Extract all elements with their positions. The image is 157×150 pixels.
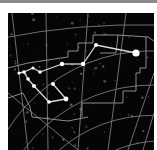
background-star-icon (9, 46, 10, 47)
background-star-icon (112, 100, 113, 101)
background-star-icon (56, 16, 57, 17)
background-star-icon (103, 23, 105, 25)
star-icon (22, 70, 26, 74)
background-star-icon (52, 136, 54, 138)
star-icon (26, 77, 30, 81)
background-star-icon (148, 83, 149, 84)
background-star-icon (10, 33, 12, 35)
background-star-icon (68, 87, 70, 89)
background-star-icon (128, 114, 130, 116)
background-star-icon (27, 43, 29, 45)
background-star-icon (125, 69, 126, 70)
star-icon (51, 82, 55, 86)
background-star-icon (99, 63, 100, 64)
background-star-icon (85, 125, 88, 128)
background-star-icon (104, 131, 105, 132)
background-star-icon (97, 65, 98, 66)
background-star-icon (80, 72, 83, 75)
background-star-icon (25, 120, 28, 123)
background-star-icon (36, 85, 38, 87)
background-star-icon (95, 67, 97, 69)
background-star-icon (32, 147, 34, 149)
background-star-icon (141, 97, 144, 100)
background-star-icon (70, 103, 73, 106)
background-star-icon (79, 89, 80, 90)
star-icon (47, 100, 51, 104)
background-star-icon (77, 69, 78, 70)
background-star-icon (137, 60, 138, 61)
background-star-icon (42, 133, 44, 135)
top-border (0, 0, 157, 3)
background-star-icon (89, 90, 90, 91)
star-chart (8, 13, 154, 150)
background-star-icon (8, 79, 9, 81)
background-star-icon (72, 82, 73, 83)
star-icon (132, 49, 139, 56)
background-star-icon (93, 73, 94, 74)
background-star-icon (126, 96, 128, 98)
background-star-icon (142, 130, 144, 132)
star-icon (81, 62, 85, 66)
star-icon (94, 43, 98, 47)
star-icon (32, 84, 36, 88)
background-star-icon (71, 127, 73, 129)
star-icon (17, 71, 20, 74)
background-star-icon (79, 19, 80, 20)
background-star-icon (42, 83, 44, 85)
star-icon (64, 97, 69, 102)
background-star-icon (85, 70, 86, 71)
background-star-icon (38, 66, 40, 68)
background-star-icon (94, 31, 96, 33)
background-star-icon (148, 96, 150, 98)
background-star-icon (86, 50, 88, 52)
star-icon (60, 62, 64, 66)
background-star-icon (73, 87, 76, 90)
background-star-icon (15, 60, 17, 62)
background-star-icon (15, 63, 17, 65)
background-star-icon (48, 61, 50, 63)
background-star-icon (128, 37, 130, 39)
background-star-icon (103, 80, 106, 83)
background-star-icon (35, 54, 36, 55)
background-star-icon (32, 18, 35, 21)
background-star-icon (10, 54, 12, 56)
background-star-icon (147, 57, 149, 59)
background-star-icon (114, 80, 115, 81)
constellation-line (49, 99, 66, 102)
background-star-icon (88, 16, 90, 18)
background-star-icon (138, 90, 139, 91)
background-star-icon (31, 13, 34, 15)
constellation-line (53, 84, 66, 99)
background-star-icon (46, 144, 47, 145)
background-star-icon (73, 131, 75, 133)
background-star-icon (71, 22, 74, 25)
background-star-icon (34, 102, 35, 103)
background-star-icon (102, 65, 104, 67)
background-star-icon (14, 68, 16, 70)
star-icon (31, 66, 34, 69)
background-star-icon (27, 111, 29, 113)
background-star-icon (48, 93, 49, 94)
background-star-icon (66, 43, 68, 45)
background-star-icon (73, 113, 75, 115)
background-star-icon (32, 18, 33, 19)
background-star-icon (59, 61, 60, 62)
background-star-icon (87, 148, 89, 150)
constellation-line (40, 64, 62, 72)
star-chart-svg (8, 13, 154, 150)
background-star-icon (75, 34, 77, 36)
star-icon (38, 70, 42, 74)
background-star-icon (93, 69, 94, 70)
background-star-icon (19, 133, 20, 134)
